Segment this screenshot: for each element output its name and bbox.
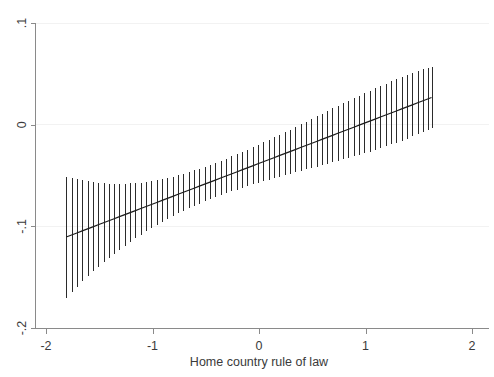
fit-line (66, 98, 431, 237)
tick-labels: .10-.1-.2-2-1012 (15, 18, 476, 353)
y-tick-label: -.1 (15, 219, 29, 234)
marginal-effects-plot: .10-.1-.2-2-1012 Home country rule of la… (0, 0, 494, 377)
y-tick-label: .1 (15, 18, 29, 28)
axes (31, 23, 490, 334)
chart-figure: .10-.1-.2-2-1012 Home country rule of la… (0, 0, 494, 377)
gridlines (35, 23, 489, 328)
y-tick-label: 0 (15, 121, 29, 128)
x-tick-label: 0 (256, 339, 263, 353)
y-tick-label: -.2 (15, 321, 29, 336)
ci-bars (67, 67, 433, 297)
x-tick-label: 2 (469, 339, 476, 353)
x-axis-title: Home country rule of law (190, 355, 329, 369)
marginal-effect-line (66, 98, 431, 237)
x-tick-label: -1 (147, 339, 158, 353)
x-tick-label: -2 (40, 339, 51, 353)
x-tick-label: 1 (362, 339, 369, 353)
